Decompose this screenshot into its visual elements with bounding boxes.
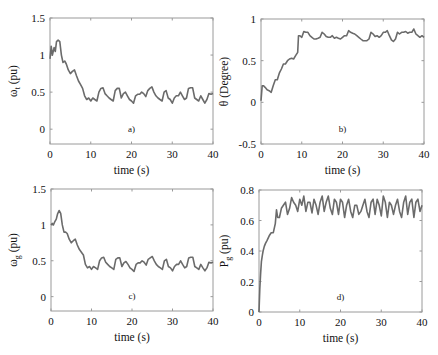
x-tick-label: 40 (208, 148, 220, 160)
x-tick-label: 20 (337, 148, 349, 160)
figure-canvas: 01020304000.511.5a)time (s)ωt (pu) 01020… (0, 0, 438, 355)
x-tick-label: 0 (258, 148, 264, 160)
y-tick-label: 0 (251, 96, 257, 108)
x-tick-label: 30 (167, 315, 179, 327)
y-tick-label: 0.5 (31, 86, 45, 98)
y-tick-label: 0.6 (240, 215, 254, 227)
series-line-theta (261, 29, 424, 101)
y-tick-label: 0 (41, 291, 47, 303)
y-tick-label: 1 (40, 49, 46, 61)
series-line-omega_g (51, 211, 213, 272)
x-tick-label: 40 (417, 316, 429, 328)
y-tick-label: 0.5 (242, 55, 256, 67)
x-tick-label: 0 (256, 316, 262, 328)
panel-label: c) (129, 291, 136, 301)
x-tick-label: 10 (86, 315, 98, 327)
series-line-omega_t (50, 40, 213, 103)
y-tick-label: 1.5 (32, 183, 46, 195)
x-tick-label: 0 (47, 148, 53, 160)
y-tick-label: 1.5 (31, 12, 45, 24)
x-tick-label: 10 (294, 316, 306, 328)
y-axis-label: ωg (pu) (7, 233, 22, 267)
y-tick-label: 0.2 (240, 276, 254, 288)
x-tick-label: 20 (127, 315, 139, 327)
y-tick-label: 0.8 (240, 184, 254, 196)
y-tick-label: 0 (40, 123, 46, 135)
y-tick-label: -0.5 (239, 138, 257, 150)
x-tick-label: 0 (48, 315, 54, 327)
y-tick-label: 1 (251, 13, 257, 25)
y-axis-label: θ (Degree) (218, 57, 231, 106)
panel-label: d) (337, 292, 345, 302)
y-tick-label: 0.5 (32, 255, 46, 267)
x-axis-label: time (s) (323, 332, 359, 345)
panel-label: b) (339, 124, 347, 134)
x-tick-label: 40 (419, 148, 431, 160)
y-tick-label: 0 (249, 306, 255, 318)
x-tick-label: 30 (378, 148, 390, 160)
x-tick-label: 20 (335, 316, 347, 328)
x-tick-label: 40 (208, 315, 220, 327)
x-axis-label: time (s) (325, 164, 361, 177)
subplot-a: 01020304000.511.5a)time (s)ωt (pu) (7, 12, 219, 177)
x-tick-label: 10 (85, 148, 97, 160)
x-tick-label: 30 (376, 316, 388, 328)
x-axis-label: time (s) (114, 331, 150, 344)
y-tick-label: 0.4 (240, 245, 254, 257)
x-tick-label: 30 (167, 148, 179, 160)
x-axis-label: time (s) (114, 164, 150, 177)
subplot-b: 010203040-0.500.51b)time (s)θ (Degree) (218, 13, 430, 177)
y-axis-label: ωt (pu) (7, 65, 22, 97)
panel-label: a) (128, 124, 135, 134)
subplot-d: 01020304000.20.40.60.8d)time (s)Pg (pu) (218, 184, 428, 345)
y-tick-label: 1 (41, 219, 47, 231)
x-tick-label: 20 (126, 148, 138, 160)
x-tick-label: 10 (296, 148, 308, 160)
subplot-c: 01020304000.511.5c)time (s)ωg (pu) (7, 183, 219, 344)
y-axis-label: Pg (pu) (218, 235, 233, 268)
